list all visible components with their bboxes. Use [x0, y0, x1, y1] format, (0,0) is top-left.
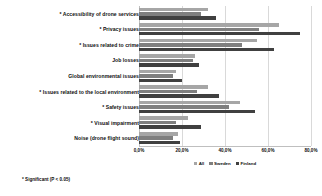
bar-finland — [139, 141, 180, 145]
bar-finland — [139, 94, 219, 98]
bar-all — [139, 54, 195, 58]
category-row: * Accessibility of drone services — [0, 6, 322, 22]
category-row: * Issues related to the local environmen… — [0, 84, 322, 100]
category-row: Job losses — [0, 53, 322, 69]
category-row: * Issues related to crime — [0, 37, 322, 53]
bar-all — [139, 39, 257, 43]
category-label: * Safety issues — [4, 104, 139, 110]
category-label: Noise (drone flight sound) — [4, 135, 139, 141]
x-tick-label: 60,0% — [261, 148, 274, 153]
bar-group — [139, 115, 311, 131]
legend-swatch-icon — [194, 162, 197, 165]
bar-sweden — [139, 90, 197, 94]
bar-all — [139, 116, 188, 120]
legend-swatch-icon — [236, 162, 239, 165]
bar-finland — [139, 79, 182, 83]
bar-sweden — [139, 74, 173, 78]
category-label: * Visual impairment — [4, 120, 139, 126]
category-label: * Accessibility of drone services — [4, 11, 139, 17]
legend-item-finland: Finland — [236, 161, 256, 166]
bar-all — [139, 85, 208, 89]
category-rows: * Accessibility of drone services* Priva… — [0, 6, 322, 146]
category-label: Job losses — [4, 57, 139, 63]
x-tick-label: 40,0% — [218, 148, 231, 153]
bar-sweden — [139, 59, 193, 63]
bar-chart: * Accessibility of drone services* Priva… — [0, 0, 322, 196]
bar-group — [139, 99, 311, 115]
bar-finland — [139, 48, 274, 52]
category-label: * Issues related to the local environmen… — [4, 89, 139, 95]
significance-footnote: * Significant (P < 0.05) — [22, 177, 70, 182]
category-label: * Privacy issues — [4, 26, 139, 32]
bar-group — [139, 53, 311, 69]
bar-all — [139, 101, 240, 105]
x-axis-line — [139, 146, 311, 147]
bar-sweden — [139, 121, 176, 125]
bar-finland — [139, 63, 199, 67]
x-axis-ticks: 0,0%20,0%40,0%60,0%80,0% — [139, 148, 311, 157]
bar-sweden — [139, 12, 201, 16]
bar-all — [139, 8, 208, 12]
bar-all — [139, 132, 178, 136]
legend-label: Finland — [240, 161, 256, 166]
category-row: Noise (drone flight sound) — [0, 130, 322, 146]
legend-swatch-icon — [209, 162, 212, 165]
bar-group — [139, 68, 311, 84]
bar-group — [139, 37, 311, 53]
bar-all — [139, 70, 176, 74]
category-label: Global environmental issues — [4, 73, 139, 79]
bar-finland — [139, 125, 201, 129]
x-tick-label: 20,0% — [175, 148, 188, 153]
bar-sweden — [139, 43, 242, 47]
x-tick-label: 80,0% — [304, 148, 317, 153]
bar-all — [139, 23, 279, 27]
x-tick-label: 0,0% — [134, 148, 144, 153]
legend-item-sweden: Sweden — [209, 161, 230, 166]
bar-sweden — [139, 105, 229, 109]
legend-item-all: All — [194, 161, 204, 166]
plot-area: * Accessibility of drone services* Priva… — [0, 0, 322, 196]
bar-group — [139, 6, 311, 22]
bar-finland — [139, 16, 216, 20]
bar-group — [139, 22, 311, 38]
chart-legend: AllSwedenFinland — [139, 161, 311, 166]
bar-sweden — [139, 28, 259, 32]
category-row: * Visual impairment — [0, 115, 322, 131]
category-row: Global environmental issues — [0, 68, 322, 84]
category-row: * Safety issues — [0, 99, 322, 115]
category-row: * Privacy issues — [0, 22, 322, 38]
legend-label: All — [199, 161, 205, 166]
bar-finland — [139, 110, 255, 114]
bar-group — [139, 130, 311, 146]
bar-finland — [139, 32, 300, 36]
bar-group — [139, 84, 311, 100]
category-label: * Issues related to crime — [4, 42, 139, 48]
bar-sweden — [139, 136, 173, 140]
legend-label: Sweden — [214, 161, 231, 166]
